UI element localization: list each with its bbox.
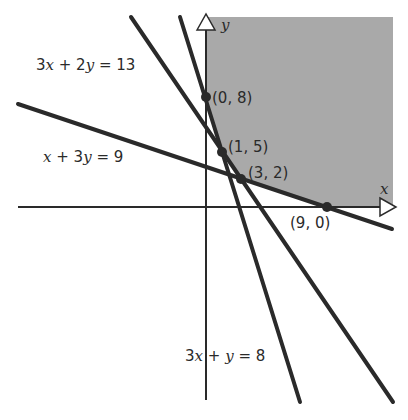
vertex-label-9-0: (9, 0) bbox=[290, 214, 330, 232]
equation-label-3x-y-8: 3x + y = 8 bbox=[185, 347, 265, 365]
equation-label-x-3y-9: x + 3y = 9 bbox=[43, 148, 123, 166]
vertex-9-0 bbox=[322, 202, 332, 212]
vertex-1-5 bbox=[217, 147, 227, 157]
feasible-region bbox=[206, 17, 393, 207]
x-axis-label: x bbox=[380, 180, 389, 198]
equation-label-3x-2y-13: 3x + 2y = 13 bbox=[36, 56, 135, 74]
vertex-label-0-8: (0, 8) bbox=[212, 89, 252, 107]
vertex-label-1-5: (1, 5) bbox=[228, 138, 268, 156]
vertex-3-2 bbox=[236, 174, 246, 184]
vertex-0-8 bbox=[201, 92, 211, 102]
vertex-label-3-2: (3, 2) bbox=[248, 164, 288, 182]
feasible-region-diagram: (0, 8) (1, 5) (3, 2) (9, 0) y x 3x + 2y … bbox=[0, 0, 408, 420]
y-axis-label: y bbox=[220, 16, 230, 34]
